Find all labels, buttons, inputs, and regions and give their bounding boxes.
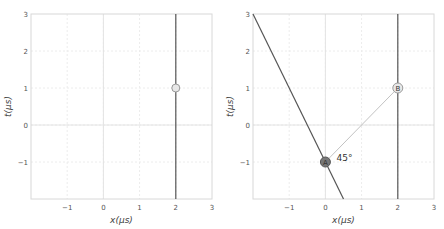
x-tick-label: 0	[101, 204, 105, 212]
y-tick-label: 3	[246, 11, 250, 19]
x-tick-label: 3	[210, 204, 214, 212]
y-tick-label: −1	[18, 159, 28, 167]
event-marker	[172, 84, 180, 92]
x-axis-label: x(μs)	[331, 215, 355, 225]
x-tick-label: 2	[174, 204, 178, 212]
angle-annotation: 45°	[336, 153, 352, 163]
x-tick-label: 3	[432, 204, 436, 212]
y-tick-label: 0	[24, 122, 28, 130]
y-tick-label: 1	[246, 85, 250, 93]
x-tick-label: −1	[284, 204, 294, 212]
x-tick-label: 1	[137, 204, 141, 212]
y-tick-label: −1	[240, 159, 250, 167]
series-line	[253, 14, 344, 199]
x-tick-label: 2	[396, 204, 400, 212]
y-axis-label: t(μs)	[225, 96, 235, 117]
plot-frame	[253, 14, 434, 199]
x-axis-label: x(μs)	[109, 215, 133, 225]
y-tick-label: 1	[24, 85, 28, 93]
y-tick-label: 3	[24, 11, 28, 19]
spacetime-diagrams: −10123−10123x(μs)t(μs)−10123−10123x(μs)t…	[0, 0, 444, 229]
chart-panel-right: −10123−10123x(μs)t(μs)45°AB	[225, 11, 436, 226]
y-tick-label: 0	[246, 122, 250, 130]
event-label: A	[323, 159, 328, 167]
x-tick-label: −1	[62, 204, 72, 212]
y-tick-label: 2	[246, 48, 250, 56]
x-tick-label: 0	[323, 204, 327, 212]
x-tick-label: 1	[359, 204, 363, 212]
chart-panel-left: −10123−10123x(μs)t(μs)	[3, 11, 214, 226]
y-tick-label: 2	[24, 48, 28, 56]
event-label: B	[395, 85, 400, 93]
y-axis-label: t(μs)	[3, 96, 13, 117]
plot-frame	[31, 14, 212, 199]
